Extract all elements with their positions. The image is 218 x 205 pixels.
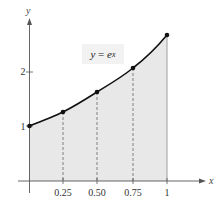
x-tick-label: 0.75 (124, 187, 142, 198)
y-axis-label: y (25, 5, 31, 16)
data-point (165, 33, 170, 38)
data-point (95, 90, 100, 95)
data-point (61, 110, 66, 115)
x-tick-label: 0.25 (54, 187, 72, 198)
y-tick-label: 1 (21, 121, 26, 132)
x-tick-label: 0.50 (88, 187, 106, 198)
eq-exponent: x (112, 50, 116, 59)
eq-equals: = (98, 48, 104, 60)
eq-y: y (90, 48, 95, 60)
data-point (131, 66, 136, 71)
x-axis-label: x (208, 175, 214, 186)
chart-canvas: 0.25 0.50 0.75 1 2 1 x y (0, 0, 218, 205)
function-label: y = ex (82, 44, 124, 64)
y-axis-arrow-icon (27, 18, 32, 25)
x-tick-label: 1 (165, 187, 170, 198)
x-axis-arrow-icon (199, 179, 206, 184)
data-point (27, 124, 32, 129)
y-tick-label: 2 (21, 66, 26, 77)
